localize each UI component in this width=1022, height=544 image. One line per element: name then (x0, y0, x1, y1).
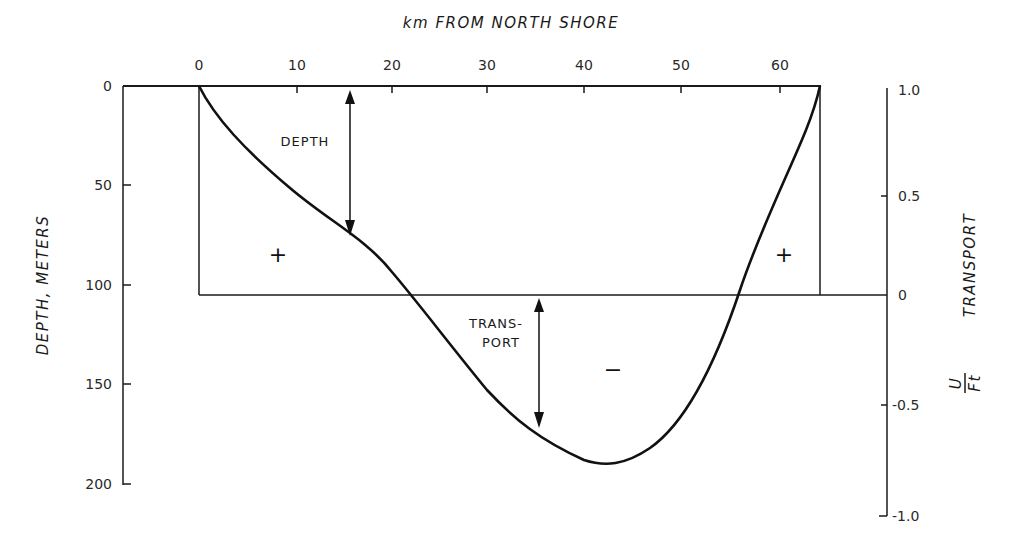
y-right-tick-0.5: 0.5 (898, 188, 920, 204)
x-tick-0: 0 (195, 57, 204, 73)
depth-arrow-up-head (345, 90, 355, 104)
left-axis-title: DEPTH, METERS (34, 215, 52, 356)
x-tick-50: 50 (672, 57, 690, 73)
right-axis-title-group: TRANSPORT U Ft (947, 212, 984, 393)
y-left-tick-200: 200 (85, 476, 112, 492)
right-axis-tick-marks (879, 196, 887, 516)
transport-arrow-up-head (534, 298, 544, 312)
top-axis-ticks: 0 10 20 30 40 50 60 (195, 57, 789, 73)
x-tick-30: 30 (478, 57, 496, 73)
transport-annotation-line1: TRANS- (468, 316, 523, 331)
right-axis-ticks: 1.0 0.5 0 -0.5 -1.0 (892, 82, 920, 524)
depth-arrow-down-head (345, 220, 355, 236)
y-left-tick-0: 0 (103, 78, 112, 94)
y-left-tick-100: 100 (85, 277, 112, 293)
fraction-denominator: Ft (966, 374, 984, 392)
plus-sign-left: + (269, 242, 287, 267)
transport-annotation-line2: PORT (482, 335, 520, 350)
x-tick-60: 60 (771, 57, 789, 73)
y-left-tick-150: 150 (85, 376, 112, 392)
u-over-ft-fraction: U Ft (947, 373, 984, 393)
y-right-tick-0: 0 (898, 287, 907, 303)
left-axis-tick-marks (123, 185, 131, 484)
top-axis-tick-marks (297, 86, 780, 93)
transport-arrow-down-head (534, 412, 544, 428)
depth-annotation: DEPTH (281, 134, 330, 149)
y-right-tick-minus-0.5: -0.5 (892, 397, 919, 413)
minus-sign: − (604, 357, 622, 382)
x-tick-40: 40 (575, 57, 593, 73)
chart-canvas: km FROM NORTH SHORE 0 10 20 30 40 50 60 … (0, 0, 1022, 544)
x-tick-10: 10 (288, 57, 306, 73)
fraction-numerator: U (947, 377, 965, 389)
top-axis-title: km FROM NORTH SHORE (403, 14, 619, 32)
plus-sign-right: + (775, 242, 793, 267)
y-right-tick-minus-1.0: -1.0 (892, 508, 919, 524)
y-right-tick-1.0: 1.0 (898, 82, 920, 98)
x-tick-20: 20 (383, 57, 401, 73)
right-axis-title: TRANSPORT (961, 212, 979, 317)
y-left-tick-50: 50 (94, 177, 112, 193)
left-axis-ticks: 0 50 100 150 200 (85, 78, 112, 492)
